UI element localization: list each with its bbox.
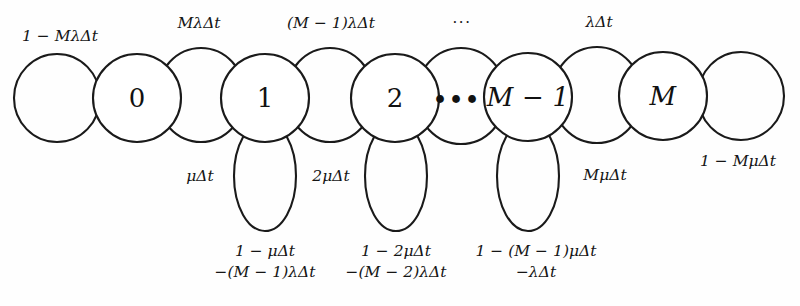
transition-loop-left-of-0: [14, 54, 100, 142]
ellipsis-top: ···: [453, 13, 472, 31]
rate-label-birth-0: MλΔt: [177, 13, 220, 33]
rate-label-death-M: MμΔt: [583, 165, 626, 185]
rate-label-death-1: μΔt: [186, 166, 214, 186]
state-label-M: M: [650, 81, 677, 111]
rate-label-birth-1: (M − 1)λΔt: [287, 13, 375, 33]
transition-loop-right-of-M: [698, 52, 784, 140]
markov-chain-diagram: 0 1 2 ••• M − 1 M 1 − MλΔt MλΔt (M − 1)λ…: [0, 0, 800, 306]
rate-label-stay-M-1-line2: −λΔt: [476, 262, 597, 283]
rate-label-stay-2-line2: −(M − 2)λΔt: [346, 262, 447, 283]
ellipsis-between-states: •••: [433, 86, 481, 112]
rate-label-stay-2: 1 − 2μΔt −(M − 2)λΔt: [346, 241, 447, 284]
rate-label-stay-1-line1: 1 − μΔt: [215, 241, 316, 262]
state-label-M-1: M − 1: [487, 82, 569, 112]
rate-label-stay-M-1-line1: 1 − (M − 1)μΔt: [476, 241, 597, 262]
state-label-0: 0: [129, 83, 146, 113]
rate-label-death-2: 2μΔt: [312, 166, 349, 186]
state-label-2: 2: [387, 83, 404, 113]
rate-label-stay-2-line1: 1 − 2μΔt: [346, 241, 447, 262]
rate-label-stay-M-1: 1 − (M − 1)μΔt −λΔt: [476, 241, 597, 284]
rate-label-birth-M-1: λΔt: [585, 12, 612, 32]
rate-label-stay-1-line2: −(M − 1)λΔt: [215, 262, 316, 283]
rate-label-stay-1: 1 − μΔt −(M − 1)λΔt: [215, 241, 316, 284]
rate-label-stay-0: 1 − MλΔt: [22, 26, 98, 46]
state-label-1: 1: [257, 83, 274, 113]
rate-label-stay-M: 1 − MμΔt: [700, 151, 776, 171]
